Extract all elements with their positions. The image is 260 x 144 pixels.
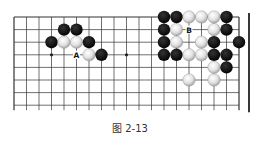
white-stone [208,11,220,23]
white-stone [208,23,220,35]
black-stone [83,36,95,48]
white-stone [208,61,220,73]
black-stone [208,49,220,61]
black-stone [58,23,70,35]
white-stone [195,36,207,48]
black-stone [95,49,107,61]
white-stone [195,11,207,23]
black-stone [233,36,245,48]
white-stone [183,49,195,61]
stones-layer [45,11,245,86]
black-stone [45,36,57,48]
black-stone [220,49,232,61]
star-point [125,53,128,56]
white-stone [183,74,195,86]
go-board-diagram: AB [0,0,260,120]
black-stone [70,23,82,35]
black-stone [170,11,182,23]
black-stone [208,36,220,48]
white-stone [83,49,95,61]
black-stone [158,49,170,61]
black-stone [158,11,170,23]
white-stone [183,11,195,23]
white-stone [170,36,182,48]
point-label-b: B [186,26,192,35]
black-stone [220,23,232,35]
white-stone [208,74,220,86]
white-stone [58,36,70,48]
black-stone [220,61,232,73]
white-stone [170,23,182,35]
black-stone [170,49,182,61]
black-stone [220,11,232,23]
black-stone [158,23,170,35]
figure-caption: 图 2-13 [0,120,260,135]
star-point [50,53,53,56]
white-stone [70,36,82,48]
point-label-a: A [74,51,80,60]
white-stone [195,49,207,61]
black-stone [158,36,170,48]
